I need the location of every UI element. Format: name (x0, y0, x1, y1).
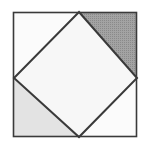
figure-container (0, 0, 147, 145)
geometry-figure (0, 0, 147, 145)
